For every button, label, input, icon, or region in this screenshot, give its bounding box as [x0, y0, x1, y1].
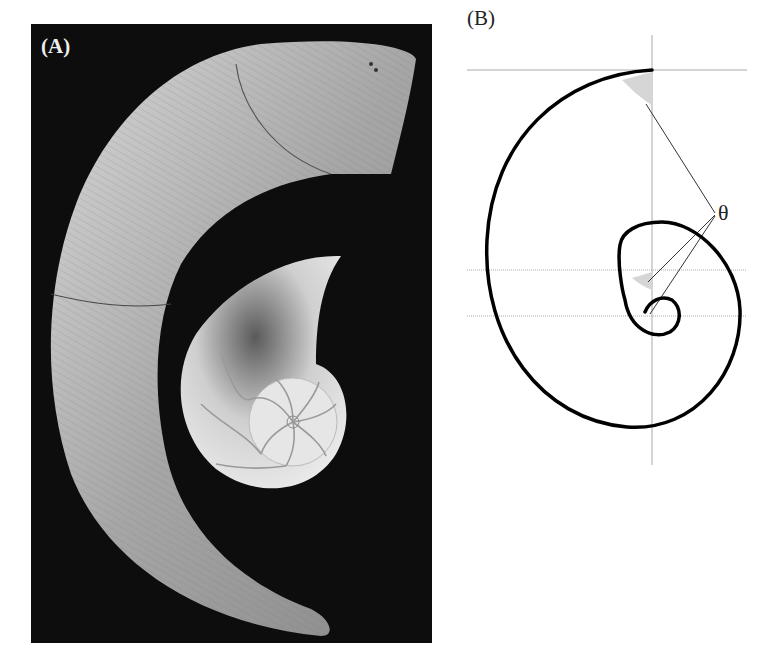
panel-a-photo: (A)	[31, 24, 432, 643]
horn-and-shell-illustration	[31, 24, 432, 643]
nautilus-shell	[181, 256, 347, 488]
panel-b-spiral-diagram: (B) θ	[432, 0, 772, 666]
panel-a-label: (A)	[41, 34, 70, 59]
angle-wedge-outer	[622, 72, 652, 105]
logarithmic-spiral-diagram	[432, 0, 772, 666]
logarithmic-spiral-curve	[487, 70, 740, 427]
panel-b-label: (B)	[467, 6, 495, 31]
theta-angle-label: θ	[718, 200, 729, 226]
theta-pointer-lines	[646, 104, 715, 314]
